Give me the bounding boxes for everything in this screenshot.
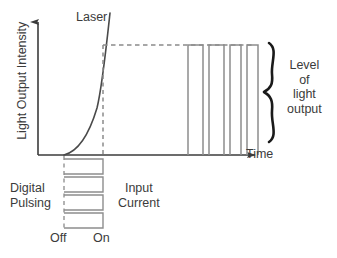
- y-axis-label: Light Output Intensity: [16, 20, 30, 142]
- level-of-light-output-label: Level of light output: [287, 58, 322, 116]
- output-pulse-3: [230, 45, 241, 155]
- input-current-label: Input Current: [118, 181, 160, 210]
- input-pulse-1: [64, 159, 103, 174]
- output-pulse-2: [209, 45, 224, 155]
- digital-pulsing-waveform: [64, 159, 103, 228]
- x-axis-label: Time: [246, 148, 273, 162]
- input-pulse-3: [64, 195, 103, 210]
- digital-pulsing-label: Digital Pulsing: [10, 181, 51, 210]
- level-brace: [264, 43, 274, 142]
- diagram-canvas: [0, 0, 337, 258]
- output-pulse-4: [247, 45, 258, 155]
- input-pulse-4: [64, 213, 103, 228]
- light-output-pulse-train: [188, 45, 258, 155]
- off-label: Off: [50, 232, 66, 246]
- output-pulse-1: [188, 45, 203, 155]
- on-label: On: [93, 232, 110, 246]
- input-pulse-2: [64, 177, 103, 192]
- laser-light-output-diagram: Light Output Intensity Laser Time Level …: [0, 0, 337, 258]
- laser-curve-label: Laser: [76, 11, 107, 25]
